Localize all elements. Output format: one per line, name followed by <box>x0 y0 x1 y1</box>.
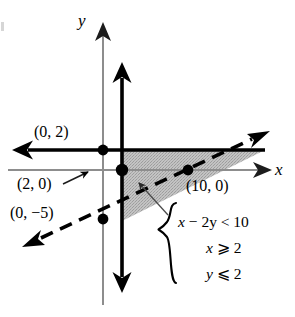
point-label-0-2: (0, 2) <box>34 124 69 140</box>
inequality-1: x − 2y < 10 <box>178 214 249 230</box>
point-10-0 <box>183 165 194 176</box>
figure-canvas: y x (0, 2) (2, 0) (0, −5) (10, 0) x − 2y… <box>0 0 295 317</box>
coordinate-plane-graph <box>0 0 295 317</box>
y-axis-label: y <box>78 12 86 29</box>
point-0-minus-5 <box>98 214 109 225</box>
page-edge-mark <box>1 22 4 31</box>
x-axis-label: x <box>275 161 283 178</box>
point-20-pointer-arrow <box>63 172 88 184</box>
y-axis <box>95 22 111 305</box>
point-label-10-0: (10, 0) <box>186 178 229 194</box>
point-label-2-0: (2, 0) <box>17 176 52 192</box>
point-label-0-minus-5: (0, −5) <box>10 205 54 221</box>
point-0-2 <box>98 145 109 156</box>
inequality-3: y ⩽ 2 <box>206 266 241 282</box>
point-2-0 <box>116 164 128 176</box>
inequality-2: x ⩾ 2 <box>206 240 241 256</box>
